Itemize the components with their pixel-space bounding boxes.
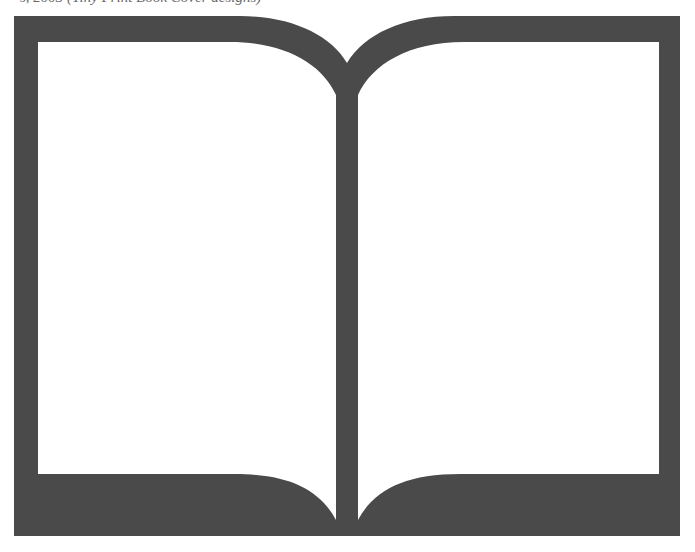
open-book-icon [0, 0, 695, 552]
left-page [38, 42, 336, 520]
right-page [358, 42, 659, 520]
